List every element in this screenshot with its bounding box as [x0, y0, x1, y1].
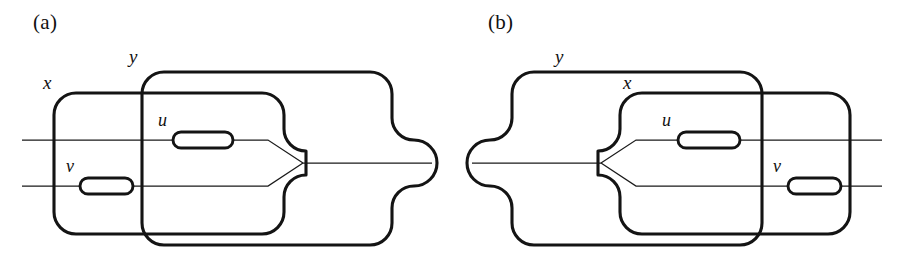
panel-b-region-x-label: x: [623, 72, 631, 94]
panel-b-region-y-boundary: [467, 72, 762, 245]
panel-a-lower-arc: [22, 163, 303, 186]
panel-b-node-u-label: u: [662, 110, 671, 131]
panel-b-node-u-capsule: [678, 132, 740, 148]
panel-b-node-v-capsule: [788, 178, 841, 194]
panel-b: (b) y x u v: [452, 0, 904, 273]
panel-a-node-v-capsule: [80, 178, 133, 194]
panel-a-region-x-boundary: [54, 93, 306, 234]
panel-a-node-u-capsule: [173, 132, 233, 148]
panel-b-region-x-boundary: [598, 93, 850, 234]
panel-b-label: (b): [488, 10, 513, 35]
panel-b-graphics: [452, 0, 904, 273]
panel-a-region-x-label: x: [43, 72, 51, 94]
panel-b-upper-arc: [601, 140, 882, 163]
panel-b-region-y-label: y: [555, 46, 563, 68]
panel-a-graphics: [0, 0, 452, 273]
figure-canvas: (a) x y u v: [0, 0, 904, 273]
panel-a-label: (a): [33, 10, 57, 35]
panel-a-node-v-label: v: [66, 156, 74, 177]
panel-a-node-u-label: u: [158, 110, 167, 131]
panel-b-node-v-label: v: [773, 156, 781, 177]
panel-a-region-y-boundary: [142, 72, 437, 245]
panel-a-region-y-label: y: [129, 46, 137, 68]
panel-a: (a) x y u v: [0, 0, 452, 273]
panel-a-upper-arc: [22, 140, 303, 163]
